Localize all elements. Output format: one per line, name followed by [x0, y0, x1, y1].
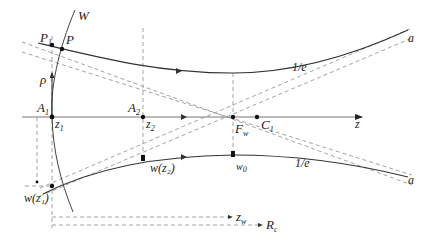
label-fw: Fw: [234, 121, 249, 138]
point-w-z1-left: [36, 181, 39, 184]
label-w0: w0: [236, 161, 247, 174]
point-a2: [141, 115, 145, 119]
label-lower-a: a: [408, 173, 414, 187]
label-p1: P1: [39, 30, 52, 47]
point-c1: [255, 115, 259, 119]
axis-direction-arrow-icon: [181, 114, 187, 120]
label-p: P: [65, 32, 74, 47]
label-c1: C1: [261, 117, 274, 134]
label-z2: z2: [145, 117, 155, 133]
label-rc: Rc: [265, 217, 278, 234]
gaussian-beam-diagram: W P1 P ρ A1 z1 A2 z2 Fw C1 z 1/e 1/e a a…: [0, 0, 434, 244]
upper-beam-envelope: [38, 30, 408, 73]
label-zw: zw: [235, 209, 247, 226]
label-upper-1e: 1/e: [292, 60, 307, 74]
label-z1: z1: [54, 117, 64, 133]
w-z2-tick: [141, 155, 145, 161]
label-w-z1: w(z₁): [24, 191, 49, 205]
point-a1: [50, 115, 55, 120]
label-lower-1e: 1/e: [295, 156, 310, 170]
point-fw: [231, 115, 235, 119]
label-wavefront: W: [78, 8, 90, 23]
label-axis-z: z: [354, 117, 360, 131]
label-a1: A1: [36, 100, 49, 117]
lower-beam-arrow-icon: [181, 154, 187, 160]
point-w-z1: [50, 184, 54, 188]
upper-beam-arrow-icon: [176, 68, 182, 74]
point-p: [60, 47, 64, 51]
w0-tick: [231, 151, 235, 157]
label-rho: ρ: [39, 72, 46, 87]
lower-beam-envelope: [43, 155, 408, 194]
label-a2: A2: [127, 100, 140, 117]
label-w-z2: w(z₂): [150, 161, 175, 175]
label-upper-a: a: [408, 31, 414, 45]
